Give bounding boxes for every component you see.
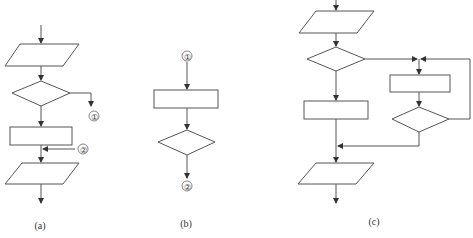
panel-caption: (a)	[34, 220, 45, 232]
panel-a: ① ② (a)	[5, 25, 99, 232]
connector-label: ②	[80, 146, 87, 155]
panel-c: (c)	[298, 0, 470, 228]
decision-diamond	[12, 81, 70, 106]
connector-2-in: ②	[78, 144, 88, 155]
panel-caption: (b)	[180, 218, 192, 230]
connector-label: ①	[91, 113, 98, 122]
connector-label: ①	[184, 53, 191, 62]
input-output-parallelogram	[5, 163, 79, 184]
panel-caption: (c)	[368, 216, 379, 228]
process-rectangle	[304, 101, 368, 119]
decision-diamond	[307, 47, 365, 71]
connector-2-out: ②	[182, 181, 192, 192]
loop-process-rectangle	[390, 75, 450, 92]
connector-1-out: ①	[89, 111, 99, 122]
connector-label: ②	[184, 183, 191, 192]
process-rectangle	[154, 90, 218, 108]
decision-diamond	[158, 130, 215, 155]
loop-decision-diamond	[392, 107, 449, 132]
input-output-parallelogram	[299, 11, 374, 33]
process-rectangle	[10, 127, 72, 145]
connector-1-in: ①	[182, 51, 192, 62]
branch-out-arrow	[70, 93, 91, 106]
panel-b: ① ② (b)	[154, 51, 218, 230]
merge-arrow	[338, 132, 419, 146]
input-output-parallelogram	[5, 44, 79, 66]
flowchart-figure: ① ② (a) ① ② (b)	[0, 0, 473, 238]
input-output-parallelogram	[298, 163, 374, 184]
